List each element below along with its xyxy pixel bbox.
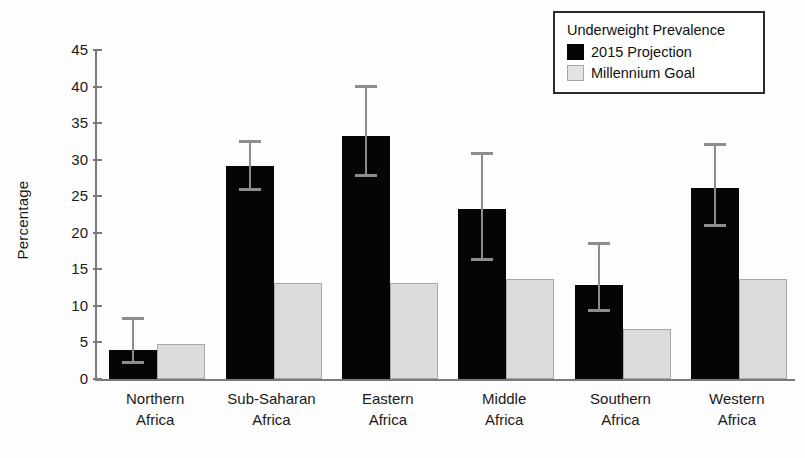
y-axis-tick-label: 45 [71, 40, 88, 60]
error-bar [575, 245, 623, 379]
x-axis-line [95, 379, 795, 381]
y-axis-tick-label: 30 [71, 150, 88, 170]
error-bar [342, 88, 390, 379]
bar-group [109, 50, 205, 379]
y-axis-tick-label: 20 [71, 223, 88, 243]
bar-group [575, 50, 671, 379]
y-axis-tick-label: 0 [80, 369, 88, 389]
legend-entry-millennium-goal: Millennium Goal [567, 63, 753, 83]
bar-group [691, 50, 787, 379]
error-bar-stem [714, 146, 716, 227]
y-axis-tick-label: 5 [80, 332, 88, 352]
x-axis-label: NorthernAfrica [97, 388, 213, 430]
error-bar [226, 143, 274, 379]
error-bar-cap-upper [355, 85, 377, 88]
legend: Underweight Prevalence 2015 Projection M… [553, 11, 765, 94]
bar-group [226, 50, 322, 379]
error-bar-cap-upper [122, 317, 144, 320]
error-bar-stem [481, 155, 483, 261]
error-bar-cap-lower [471, 258, 493, 261]
x-axis-label-line1: Western [679, 388, 795, 409]
error-bar-stem [598, 245, 600, 312]
bar-group [458, 50, 554, 379]
x-axis-label: SouthernAfrica [562, 388, 678, 430]
legend-label-millennium-goal: Millennium Goal [591, 63, 695, 83]
error-bar [691, 146, 739, 379]
error-bar-cap-lower [355, 174, 377, 177]
x-axis-label: Sub-SaharanAfrica [213, 388, 329, 430]
bar-goal [506, 279, 554, 379]
error-bar-stem [132, 320, 134, 365]
x-axis-label: WesternAfrica [679, 388, 795, 430]
legend-swatch-millennium-goal [567, 65, 584, 81]
y-axis-tick-label: 10 [71, 296, 88, 316]
x-axis-label-line2: Africa [330, 409, 446, 430]
error-bar [109, 320, 157, 379]
error-bar-cap-upper [471, 152, 493, 155]
y-axis-tick-label: 15 [71, 259, 88, 279]
bar-goal [390, 283, 438, 380]
x-axis-label: EasternAfrica [330, 388, 446, 430]
legend-label-2015-projection: 2015 Projection [591, 42, 692, 62]
x-axis-label: MiddleAfrica [446, 388, 562, 430]
legend-swatch-2015-projection [567, 44, 584, 60]
x-axis-label-line2: Africa [679, 409, 795, 430]
error-bar-cap-lower [122, 361, 144, 364]
bar-goal [274, 283, 322, 380]
error-bar-stem [249, 143, 251, 191]
error-bar-cap-lower [588, 309, 610, 312]
x-axis-label-line1: Middle [446, 388, 562, 409]
y-axis-tick-label: 40 [71, 77, 88, 97]
bar-group [342, 50, 438, 379]
bar-goal [623, 329, 671, 379]
error-bar-cap-upper [588, 242, 610, 245]
x-axis-label-line2: Africa [446, 409, 562, 430]
plot-area [97, 50, 795, 379]
x-axis-label-line1: Southern [562, 388, 678, 409]
error-bar [458, 155, 506, 379]
error-bar-stem [365, 88, 367, 177]
y-axis-title: Percentage [14, 150, 31, 290]
x-axis-label-line2: Africa [213, 409, 329, 430]
error-bar-cap-lower [239, 188, 261, 191]
x-axis-label-line1: Eastern [330, 388, 446, 409]
x-axis-label-line1: Sub-Saharan [213, 388, 329, 409]
y-axis-tick-label: 35 [71, 113, 88, 133]
legend-entry-2015-projection: 2015 Projection [567, 42, 753, 62]
bar-chart: Percentage 051015202530354045 NorthernAf… [0, 0, 805, 458]
y-axis-tick-label: 25 [71, 186, 88, 206]
bar-goal [739, 279, 787, 379]
x-axis-label-line2: Africa [97, 409, 213, 430]
x-axis-label-line2: Africa [562, 409, 678, 430]
bar-goal [157, 344, 205, 379]
legend-title: Underweight Prevalence [567, 20, 753, 40]
error-bar-cap-lower [704, 224, 726, 227]
error-bar-cap-upper [239, 140, 261, 143]
error-bar-cap-upper [704, 143, 726, 146]
x-axis-label-line1: Northern [97, 388, 213, 409]
